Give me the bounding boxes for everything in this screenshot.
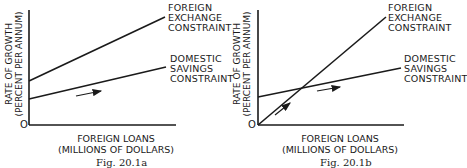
fx-constraint-line-b [258,17,386,125]
ds-constraint-line-b [258,68,401,97]
figure-b-axes [258,10,404,125]
x-axis-label-b: FOREIGN LOANS (MILLIONS OF DOLLARS) [270,133,410,155]
ds-constraint-label-b: DOMESTIC SAVINGS CONSTRAINT [404,54,467,84]
ds-constraint-label-a: DOMESTIC SAVINGS CONSTRAINT [170,54,233,84]
arrow-icon [76,91,101,96]
x-label-line1: FOREIGN LOANS [270,133,410,144]
x-label-line1: FOREIGN LOANS [46,133,186,144]
fx-constraint-label-b: FOREIGN EXCHANGE CONSTRAINT [388,3,451,33]
origin-label-a: O [20,119,28,130]
y-label-line1: RATE OF GROWTH [4,4,14,124]
label-line: CONSTRAINT [404,74,467,84]
x-label-line2: (MILLIONS OF DOLLARS) [270,144,410,155]
caption-a: Fig. 20.1a [96,157,147,168]
y-label-line2: (PERCENT PER ANNUM) [14,4,24,124]
fx-constraint-label-a: FOREIGN EXCHANGE CONSTRAINT [168,3,231,33]
y-axis-label-a: RATE OF GROWTH (PERCENT PER ANNUM) [4,4,24,124]
origin-label-b: O [248,119,256,130]
label-line: CONSTRAINT [168,23,231,33]
label-line: CONSTRAINT [170,74,233,84]
label-line: CONSTRAINT [388,23,451,33]
arrow-icon [317,87,340,91]
figure-a-axes [29,10,176,125]
caption-b: Fig. 20.1b [320,157,372,168]
x-axis-label-a: FOREIGN LOANS (MILLIONS OF DOLLARS) [46,133,186,155]
y-label-line1: RATE OF GROWTH [232,4,242,124]
y-axis-label-b: RATE OF GROWTH (PERCENT PER ANNUM) [232,4,252,124]
y-label-line2: (PERCENT PER ANNUM) [242,4,252,124]
x-label-line2: (MILLIONS OF DOLLARS) [46,144,186,155]
